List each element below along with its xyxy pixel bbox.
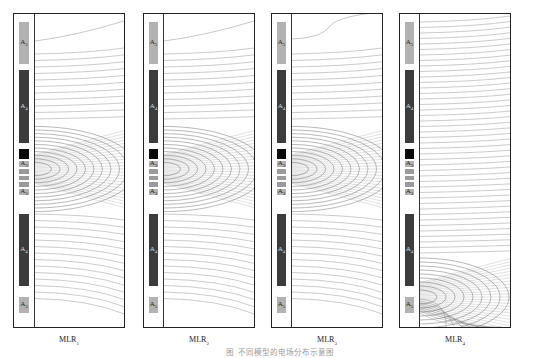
layer-a5: A5 — [277, 297, 286, 313]
layer-strip: A5A4A3A3A4A5 — [14, 14, 35, 327]
layer-a5: A5 — [149, 22, 158, 64]
layer-a2 — [277, 182, 286, 187]
layer-source — [19, 149, 29, 159]
layer-a3: A3 — [405, 161, 414, 167]
panel-label-mlr3: MLR3 — [271, 335, 383, 346]
layer-a5: A5 — [149, 297, 158, 313]
layer-a5: A5 — [277, 22, 286, 64]
layer-a4: A4 — [277, 214, 286, 286]
layer-strip: A5A4A3A3A4A5 — [144, 14, 164, 327]
layer-source — [277, 149, 286, 159]
panel-mlr2: A5A4A3A3A4A5 — [143, 13, 255, 328]
panel-label-mlr2: MLR2 — [143, 335, 255, 346]
layer-a4: A4 — [405, 70, 414, 143]
layer-a3: A3 — [277, 161, 286, 167]
layer-a5: A5 — [405, 297, 414, 313]
layer-a4: A4 — [19, 214, 29, 286]
panel-mlr3: A5A4A3A3A4A5 — [271, 13, 383, 328]
layer-a3: A3 — [19, 161, 29, 167]
layer-a4: A4 — [149, 214, 158, 286]
panel-mlr4: A5A4A3A3A4A5 — [399, 13, 511, 328]
figure-caption: 图 不同模型的电场分布示意图 — [160, 346, 400, 357]
layer-a2 — [149, 182, 158, 187]
layer-a1 — [19, 176, 29, 180]
contour-field — [292, 14, 382, 327]
panel-label-mlr4: MLR4 — [399, 335, 511, 346]
panel-mlr1: A5A4A3A3A4A5 — [13, 13, 125, 328]
layer-a4: A4 — [19, 70, 29, 143]
layer-a3: A3 — [277, 189, 286, 195]
layer-strip: A5A4A3A3A4A5 — [272, 14, 292, 327]
layer-source — [405, 149, 414, 159]
layer-a2 — [405, 169, 414, 174]
layer-a5: A5 — [19, 297, 29, 313]
layer-source — [149, 149, 158, 159]
layer-a3: A3 — [405, 189, 414, 195]
layer-a2 — [19, 169, 29, 174]
layer-a3: A3 — [19, 189, 29, 195]
layer-a2 — [19, 182, 29, 187]
layer-a2 — [405, 182, 414, 187]
layer-a1 — [277, 176, 286, 180]
layer-a4: A4 — [405, 214, 414, 286]
contour-field — [164, 14, 254, 327]
contour-field — [420, 14, 510, 327]
layer-a5: A5 — [19, 22, 29, 64]
layer-a1 — [405, 176, 414, 180]
layer-a4: A4 — [149, 70, 158, 143]
layer-a5: A5 — [405, 22, 414, 64]
layer-a3: A3 — [149, 161, 158, 167]
layer-a1 — [149, 176, 158, 180]
contour-field — [35, 14, 124, 327]
layer-a2 — [149, 169, 158, 174]
panel-label-mlr1: MLR1 — [13, 335, 125, 346]
layer-a4: A4 — [277, 70, 286, 143]
layer-a2 — [277, 169, 286, 174]
layer-a3: A3 — [149, 189, 158, 195]
layer-strip: A5A4A3A3A4A5 — [400, 14, 420, 327]
